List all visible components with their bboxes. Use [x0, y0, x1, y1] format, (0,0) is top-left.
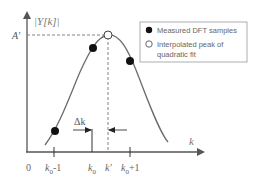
- measured-sample-k0-plus-1: [126, 57, 134, 65]
- legend-item-interpolated-line1: Interpolated peak of: [157, 40, 224, 49]
- x-axis-label: k: [189, 135, 195, 147]
- legend-item-measured: Measured DFT samples: [157, 26, 237, 35]
- tick-label-k0: k0: [88, 162, 96, 176]
- legend-item-interpolated-line2: quadratic fit: [157, 50, 197, 59]
- tick-label-zero: 0: [26, 162, 31, 173]
- tick-label-k-prime: k': [105, 162, 112, 173]
- dft-peak-diagram: |Y[k]| A' k Δk 0 k0-1 k0 k' k0+1 Measure…: [0, 0, 253, 179]
- measured-sample-k0: [89, 44, 97, 52]
- legend-open-marker: [146, 41, 152, 47]
- delta-k-label: Δk: [74, 116, 85, 127]
- tick-label-k0-minus-1: k0-1: [45, 162, 61, 176]
- tick-label-k0-plus-1: k0+1: [121, 162, 140, 176]
- interpolated-peak: [104, 31, 112, 39]
- legend-filled-marker: [146, 27, 152, 33]
- measured-sample-k0-minus-1: [51, 127, 59, 135]
- legend: Measured DFT samples Interpolated peak o…: [140, 22, 247, 62]
- y-axis-label: |Y[k]|: [34, 15, 60, 27]
- peak-value-label: A': [11, 30, 21, 41]
